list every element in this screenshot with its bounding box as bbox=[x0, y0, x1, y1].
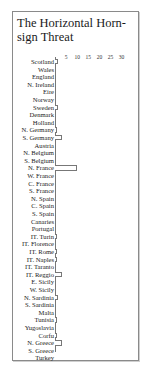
category-label: IT. Reggio bbox=[26, 271, 54, 279]
bar bbox=[55, 105, 58, 110]
bar-row: England bbox=[13, 73, 138, 81]
bar-row: Austria bbox=[13, 142, 138, 150]
bar-row: S. Sardinia bbox=[13, 301, 138, 309]
bar-row: N. Spain bbox=[13, 195, 138, 203]
category-label: N. Ireland bbox=[27, 81, 54, 89]
category-label: IT. Taranto bbox=[25, 263, 54, 271]
category-label: Wales bbox=[38, 66, 54, 74]
category-label: N. France bbox=[28, 164, 54, 172]
category-label: Canaries bbox=[31, 218, 54, 226]
category-label: S. Spain bbox=[32, 210, 54, 218]
bar-row: N. Ireland bbox=[13, 81, 138, 89]
bar-row: E. Sicily bbox=[13, 278, 138, 286]
category-label: IT. Turin bbox=[31, 233, 54, 241]
bar-row: Norway bbox=[13, 96, 138, 104]
bar bbox=[55, 165, 77, 170]
bar bbox=[55, 272, 62, 277]
bar-row: Denmark bbox=[13, 111, 138, 119]
bar-row: C. Spain bbox=[13, 202, 138, 210]
category-label: Yugoslavia bbox=[25, 324, 54, 332]
category-label: S. Sardinia bbox=[25, 301, 54, 309]
bar bbox=[55, 135, 62, 140]
bar-row: S. Belgium bbox=[13, 157, 138, 165]
bar-row: N. France bbox=[13, 164, 138, 172]
category-label: Holland bbox=[33, 119, 54, 127]
category-label: N. Sardinia bbox=[24, 294, 54, 302]
category-label: IT. Naples bbox=[27, 256, 54, 264]
bar-row: S. Germany bbox=[13, 134, 138, 142]
bar bbox=[55, 317, 57, 322]
bar-row: IT. Florence bbox=[13, 240, 138, 248]
category-label: Tunisia bbox=[34, 316, 54, 324]
bar-row: Yugoslavia bbox=[13, 324, 138, 332]
bar-row: S. France bbox=[13, 187, 138, 195]
bar-row: Holland bbox=[13, 119, 138, 127]
category-label: England bbox=[32, 73, 54, 81]
bar-row: IT. Taranto bbox=[13, 263, 138, 271]
bar bbox=[55, 234, 57, 239]
category-label: N. Greece bbox=[27, 339, 54, 347]
category-label: W. Sicily bbox=[30, 286, 54, 294]
category-label: N. Germany bbox=[21, 126, 54, 134]
bar bbox=[55, 340, 62, 345]
bar-row: S. Spain bbox=[13, 210, 138, 218]
bar-row: W. Sicily bbox=[13, 286, 138, 294]
bar bbox=[55, 249, 57, 254]
category-label: Turkey bbox=[35, 354, 54, 362]
bar bbox=[55, 127, 57, 132]
category-label: C. France bbox=[28, 180, 54, 188]
bar-row: Scotland bbox=[13, 58, 138, 66]
bar-row: N. Germany bbox=[13, 126, 138, 134]
bar bbox=[55, 333, 57, 338]
category-label: S. France bbox=[29, 187, 54, 195]
category-label: Austria bbox=[35, 142, 54, 150]
category-label: Eire bbox=[43, 88, 54, 96]
bar-row: IT. Reggio bbox=[13, 271, 138, 279]
chart-title: The Horizontal Horn-sign Threat bbox=[17, 16, 137, 44]
category-label: N. Spain bbox=[31, 195, 54, 203]
bar-row: C. France bbox=[13, 180, 138, 188]
bar-row: IT. Turin bbox=[13, 233, 138, 241]
chart-frame: The Horizontal Horn-sign Threat 51015202… bbox=[12, 11, 139, 361]
bar-row: Sweden bbox=[13, 104, 138, 112]
bar-row: N. Belgium bbox=[13, 149, 138, 157]
category-label: S. Belgium bbox=[24, 157, 54, 165]
category-label: Sweden bbox=[33, 104, 54, 112]
category-label: Scotland bbox=[31, 58, 54, 66]
category-label: S. Germany bbox=[23, 134, 55, 142]
bar-row: N. Sardinia bbox=[13, 294, 138, 302]
category-label: IT. Rome bbox=[29, 248, 54, 256]
bar-row: Portugal bbox=[13, 225, 138, 233]
category-label: IT. Florence bbox=[22, 240, 54, 248]
bar-row: Wales bbox=[13, 66, 138, 74]
bar-row: Tunisia bbox=[13, 316, 138, 324]
bar-row: Corfu bbox=[13, 332, 138, 340]
bar-row: S. Greece bbox=[13, 347, 138, 355]
category-label: E. Sicily bbox=[31, 278, 54, 286]
bar-row: N. Greece bbox=[13, 339, 138, 347]
bar bbox=[55, 59, 58, 64]
category-label: Malta bbox=[39, 309, 54, 317]
category-label: Corfu bbox=[39, 332, 54, 340]
category-label: W. France bbox=[27, 172, 54, 180]
bar bbox=[55, 295, 58, 300]
category-label: C. Spain bbox=[31, 202, 54, 210]
bar bbox=[55, 257, 57, 262]
bar-row: Eire bbox=[13, 88, 138, 96]
bar-row: IT. Naples bbox=[13, 256, 138, 264]
bar-row: IT. Rome bbox=[13, 248, 138, 256]
bar-row: W. France bbox=[13, 172, 138, 180]
category-label: N. Belgium bbox=[23, 149, 54, 157]
category-label: Denmark bbox=[29, 111, 54, 119]
category-label: Portugal bbox=[32, 225, 54, 233]
bar-row: Malta bbox=[13, 309, 138, 317]
category-label: S. Greece bbox=[28, 347, 54, 355]
category-label: Norway bbox=[33, 96, 54, 104]
bar-row: Canaries bbox=[13, 218, 138, 226]
bar-row: Turkey bbox=[13, 354, 138, 362]
